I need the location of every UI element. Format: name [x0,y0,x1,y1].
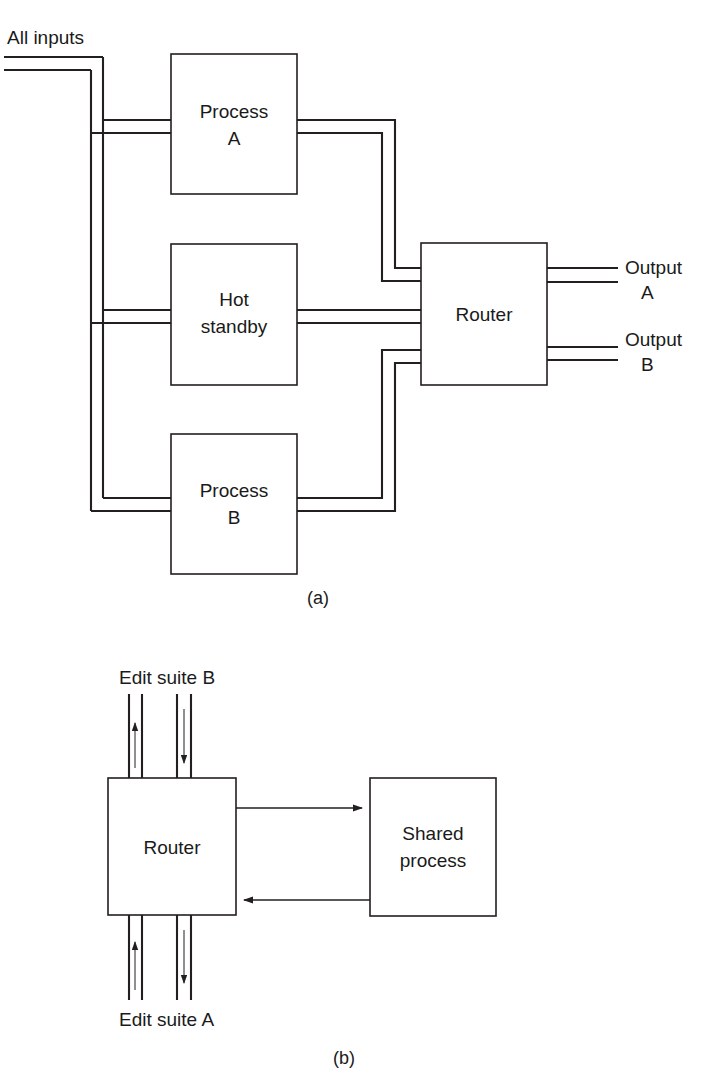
block-process-a[interactable] [171,54,297,194]
output-a-label-line2: A [641,282,654,303]
block-hot-standby-label-line1: Hot [219,289,249,310]
canvas-background [0,0,711,1086]
all-inputs-label: All inputs [7,27,84,48]
block-router-b-label: Router [143,837,201,858]
edit-suite-a-label: Edit suite A [119,1009,214,1030]
output-a-label-line1: Output [625,257,683,278]
block-shared-process-label-line2: process [400,850,467,871]
output-b-label-line2: B [641,354,654,375]
block-process-a-label-line1: Process [200,101,269,122]
block-hot-standby[interactable] [171,244,297,385]
block-process-b-label-line2: B [228,507,241,528]
block-shared-process[interactable] [370,778,496,916]
block-process-b[interactable] [171,434,297,574]
panel-a-part-label: (a) [307,588,329,608]
diagram-svg: Process A Hot standby Process B Router A… [0,0,711,1086]
block-process-a-label-line2: A [228,128,241,149]
panel-b-part-label: (b) [333,1048,355,1068]
block-hot-standby-label-line2: standby [201,316,268,337]
block-process-b-label-line1: Process [200,480,269,501]
figure-container: Process A Hot standby Process B Router A… [0,0,711,1086]
output-b-label-line1: Output [625,329,683,350]
block-router-a-label: Router [455,304,513,325]
block-shared-process-label-line1: Shared [402,823,463,844]
edit-suite-b-label: Edit suite B [119,667,215,688]
